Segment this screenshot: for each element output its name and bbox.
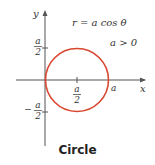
x-axis-arrow-icon (140, 78, 146, 83)
svg-text:a: a (74, 84, 79, 94)
y-axis-label: y (32, 8, 39, 19)
condition-label: a > 0 (110, 37, 138, 48)
svg-text:−: − (24, 104, 32, 114)
tick-label-x-end: a (111, 83, 116, 93)
svg-text:a: a (35, 36, 40, 46)
y-axis-arrow-icon (43, 10, 48, 16)
tick-label-x-mid: a 2 (73, 84, 81, 105)
tick-label-y-pos: a 2 (34, 36, 42, 57)
svg-text:2: 2 (34, 47, 41, 57)
svg-text:2: 2 (34, 111, 41, 121)
polar-circle-diagram: y x r = a cos θ a > 0 a 2 − a 2 a 2 a (0, 0, 155, 165)
x-axis-label: x (140, 83, 146, 94)
figure-caption: Circle (0, 143, 155, 157)
equation-label: r = a cos θ (72, 17, 127, 28)
svg-text:a: a (35, 100, 40, 110)
svg-text:2: 2 (73, 95, 80, 105)
tick-label-y-neg: − a 2 (24, 100, 42, 121)
